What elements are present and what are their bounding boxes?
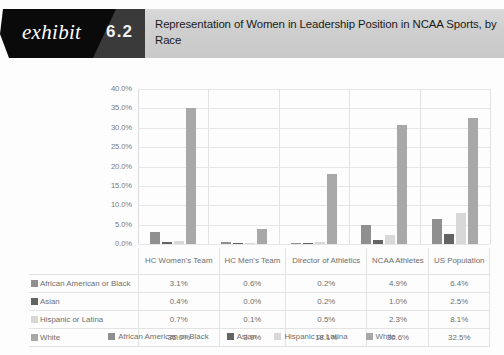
table-cell: 0.1% xyxy=(219,311,286,329)
bar[interactable] xyxy=(186,108,196,244)
bar[interactable] xyxy=(233,243,243,244)
table-column-header: NCAA Athletes xyxy=(367,248,429,275)
legend-color-swatch-icon xyxy=(227,333,234,340)
bar[interactable] xyxy=(468,118,478,244)
series-color-swatch-icon xyxy=(31,280,38,287)
legend-item[interactable]: White xyxy=(366,332,396,341)
table-row: African American or Black3.1%0.6%0.2%4.9… xyxy=(29,275,490,293)
bar[interactable] xyxy=(245,243,255,244)
bar[interactable] xyxy=(315,242,325,244)
table-cell: 0.5% xyxy=(286,311,367,329)
table-row: Asian0.4%0.0%0.2%1.0%2.5% xyxy=(29,293,490,311)
y-axis-tick-label: 20.0% xyxy=(86,162,132,171)
table-cell: 0.7% xyxy=(139,311,220,329)
legend-label: Hispanic or Latina xyxy=(284,332,347,341)
table-column-header: HC Men's Team xyxy=(219,248,286,275)
bar[interactable] xyxy=(221,242,231,244)
legend-label: African American or Black xyxy=(118,332,208,341)
exhibit-number: 6.2 xyxy=(106,22,133,42)
bar[interactable] xyxy=(303,243,313,244)
chart-legend: African American or BlackAsianHispanic o… xyxy=(0,332,504,341)
bar[interactable] xyxy=(361,225,371,244)
table-cell: 0.6% xyxy=(219,275,286,293)
bar[interactable] xyxy=(385,235,395,244)
legend-label: Asian xyxy=(237,332,257,341)
exhibit-title-band: Representation of Women in Leadership Po… xyxy=(145,9,504,58)
bar-group xyxy=(138,89,208,244)
bar[interactable] xyxy=(150,232,160,244)
series-color-swatch-icon xyxy=(31,298,38,305)
legend-label: White xyxy=(376,332,396,341)
bar[interactable] xyxy=(397,125,407,244)
legend-item[interactable]: Hispanic or Latina xyxy=(274,332,347,341)
table-cell: 0.0% xyxy=(219,293,286,311)
table-cell: 1.0% xyxy=(367,293,429,311)
exhibit-label: exhibit xyxy=(22,20,81,45)
table-column-header: Director of Athletics xyxy=(286,248,367,275)
plot-area xyxy=(138,89,490,244)
y-axis-tick-label: 10.0% xyxy=(86,200,132,209)
table-row-label: Hispanic or Latina xyxy=(29,311,139,329)
y-axis-tick-label: 35.0% xyxy=(86,103,132,112)
legend-color-swatch-icon xyxy=(366,333,373,340)
gridline xyxy=(138,244,490,245)
table-cell: 0.2% xyxy=(286,275,367,293)
table-cell: 3.1% xyxy=(139,275,220,293)
legend-color-swatch-icon xyxy=(108,333,115,340)
table-row-label: Asian xyxy=(29,293,139,311)
bar[interactable] xyxy=(456,213,466,244)
y-axis-tick-label: 25.0% xyxy=(86,142,132,151)
bar-group xyxy=(208,89,278,244)
table-column-header: US Population xyxy=(429,248,490,275)
bar[interactable] xyxy=(444,234,454,244)
table-cell: 8.1% xyxy=(429,311,490,329)
y-axis-tick-label: 0.0% xyxy=(86,239,132,248)
table-row-label: African American or Black xyxy=(29,275,139,293)
legend-item[interactable]: Asian xyxy=(227,332,257,341)
exhibit-header: exhibit 6.2 Representation of Women in L… xyxy=(0,9,504,58)
bar[interactable] xyxy=(174,241,184,244)
table-cell: 0.2% xyxy=(286,293,367,311)
table-cell: 6.4% xyxy=(429,275,490,293)
chart-container: 40.0%35.0%30.0%25.0%20.0%15.0%10.0%5.0%0… xyxy=(0,78,504,355)
y-axis-tick-label: 15.0% xyxy=(86,181,132,190)
table-header-row: HC Women's TeamHC Men's TeamDirector of … xyxy=(29,248,490,275)
table-cell: 4.9% xyxy=(367,275,429,293)
legend-color-swatch-icon xyxy=(274,333,281,340)
bar[interactable] xyxy=(162,242,172,244)
category-separator xyxy=(490,89,491,244)
table-column-header: HC Women's Team xyxy=(139,248,220,275)
table-cell: 0.4% xyxy=(139,293,220,311)
table-row: Hispanic or Latina0.7%0.1%0.5%2.3%8.1% xyxy=(29,311,490,329)
bar[interactable] xyxy=(291,243,301,244)
bar-group xyxy=(420,89,490,244)
bar[interactable] xyxy=(257,229,267,244)
bar-group xyxy=(349,89,419,244)
table-cell: 2.5% xyxy=(429,293,490,311)
series-color-swatch-icon xyxy=(31,316,38,323)
y-axis-tick-label: 40.0% xyxy=(86,84,132,93)
bar[interactable] xyxy=(327,174,337,244)
bar-group xyxy=(279,89,349,244)
table-cell: 2.3% xyxy=(367,311,429,329)
y-axis-tick-label: 5.0% xyxy=(86,220,132,229)
legend-item[interactable]: African American or Black xyxy=(108,332,208,341)
page-title: Representation of Women in Leadership Po… xyxy=(155,16,497,48)
table-corner-cell xyxy=(29,248,139,275)
bar[interactable] xyxy=(432,219,442,244)
bar[interactable] xyxy=(373,240,383,244)
y-axis-tick-label: 30.0% xyxy=(86,123,132,132)
